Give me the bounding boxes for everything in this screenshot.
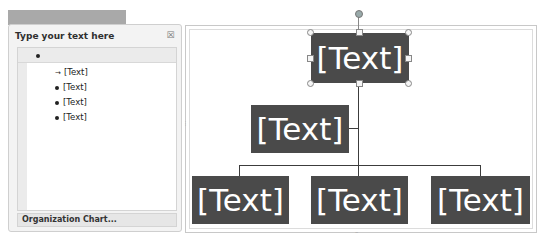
resize-grip-bottom[interactable]: ···· <box>355 229 357 235</box>
org-node-child-2[interactable]: [Text] <box>311 176 408 224</box>
list-item[interactable]: →[Text] <box>55 65 88 79</box>
organization-chart-link[interactable]: Organization Chart... <box>17 213 177 227</box>
connector-assistant <box>349 128 359 129</box>
resize-handle-e[interactable] <box>405 55 412 62</box>
bullet-icon <box>55 101 59 105</box>
bullet-icon <box>36 54 40 58</box>
resize-handle-w[interactable] <box>307 55 314 62</box>
bullet-icon <box>55 116 59 120</box>
arrow-bullet-icon: → <box>55 66 61 80</box>
resize-handle-nw[interactable] <box>307 29 314 36</box>
list-item[interactable]: [Text] <box>55 80 87 94</box>
resize-handle-ne[interactable] <box>405 29 412 36</box>
rotate-handle-icon[interactable] <box>355 10 363 18</box>
resize-handle-n[interactable] <box>356 29 363 36</box>
close-icon[interactable]: ☒ <box>166 31 175 40</box>
resize-handle-s[interactable] <box>356 80 363 87</box>
connector-right <box>480 165 481 176</box>
text-pane: Type your text here ☒ →[Text] [Text] [Te… <box>8 24 182 232</box>
bullet-icon <box>55 86 59 90</box>
resize-handle-sw[interactable] <box>307 80 314 87</box>
list-item[interactable]: [Text] <box>55 110 87 124</box>
org-node-child-3[interactable]: [Text] <box>431 176 530 224</box>
list-gutter <box>18 48 27 210</box>
list-item[interactable]: [Text] <box>55 95 87 109</box>
connector-left <box>239 165 240 176</box>
pane-title: Type your text here <box>15 31 114 41</box>
connector-horizontal <box>239 165 480 166</box>
tab-strip <box>8 10 126 25</box>
text-list[interactable]: →[Text] [Text] [Text] [Text] <box>17 47 177 211</box>
resize-grip-left[interactable]: ⋮ <box>183 120 187 126</box>
org-node-top[interactable]: [Text] <box>311 33 409 83</box>
connector-vertical <box>358 83 359 176</box>
resize-handle-se[interactable] <box>405 80 412 87</box>
org-node-assistant[interactable]: [Text] <box>251 105 349 153</box>
list-item-top[interactable] <box>18 48 176 63</box>
rotation-stem <box>358 17 359 29</box>
org-node-child-1[interactable]: [Text] <box>192 176 289 224</box>
